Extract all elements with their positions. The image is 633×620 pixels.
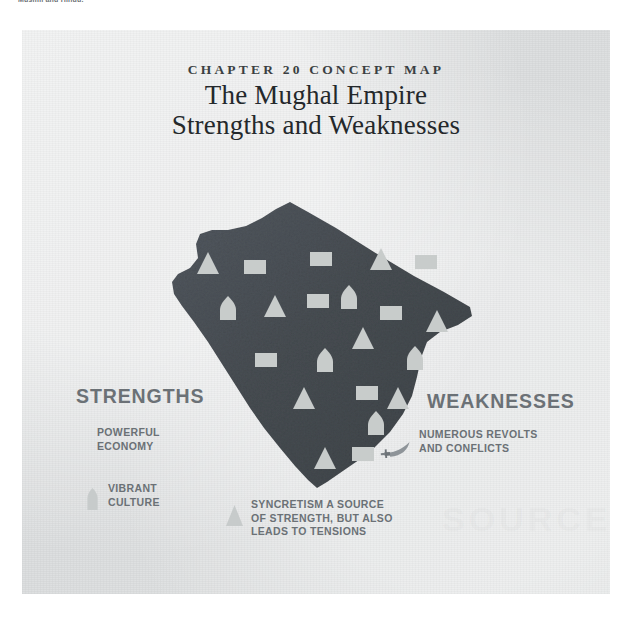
map-symbol-triangle [293,387,315,409]
legend-label-syncretism: SYNCRETISM A SOURCE OF STRENGTH, BUT ALS… [251,498,393,539]
map-symbol-square [310,252,332,266]
section-heading-weaknesses: WEAKNESSES [427,390,575,413]
map-symbol-triangle [352,327,374,349]
legend-item-numerous-revolts: NUMEROUS REVOLTS AND CONFLICTS [380,428,538,460]
dome-icon [84,487,101,515]
map-symbol-triangle [387,387,409,409]
map-symbol-square [356,386,378,400]
map-symbol-triangle [264,295,286,317]
legend-item-syncretism: SYNCRETISM A SOURCE OF STRENGTH, BUT ALS… [225,498,393,539]
map-symbol-dome [407,346,423,370]
map-symbol-square [307,294,329,308]
figure-title-line-1: The Mughal Empire [22,80,610,111]
map-symbol-triangle [197,252,219,274]
concept-map-figure: SOURCE CHAPTER 20 CONCEPT MAP The Mughal… [22,30,610,594]
map-symbol-square [244,260,266,274]
map-symbol-triangle [426,310,448,332]
map-symbol-triangle [314,447,336,469]
map-symbol-dome [317,348,333,372]
map-symbol-dome [341,285,357,309]
triangle-icon [225,503,244,531]
legend-label-vibrant-culture: VIBRANT CULTURE [108,482,160,509]
map-symbol-dome [220,296,236,320]
legend-label-numerous-revolts: NUMEROUS REVOLTS AND CONFLICTS [419,428,538,455]
map-symbol-square [380,306,402,320]
figure-eyebrow: CHAPTER 20 CONCEPT MAP [22,62,610,78]
legend-label-powerful-economy: POWERFUL ECONOMY [97,426,160,453]
map-symbol-square [255,353,277,367]
legend-item-vibrant-culture: VIBRANT CULTURE [84,482,160,510]
watermark-text: SOURCE [442,500,610,539]
map-symbol-triangle [370,248,392,270]
map-symbol-square [415,255,437,269]
figure-title-line-2: Strengths and Weaknesses [22,110,610,141]
section-heading-strengths: STRENGTHS [76,385,204,408]
page-running-caption: Muslim and Hindu. [18,0,84,3]
legend-item-powerful-economy: POWERFUL ECONOMY [90,426,160,453]
map-symbol-square [352,447,374,461]
sword-icon [380,433,412,465]
